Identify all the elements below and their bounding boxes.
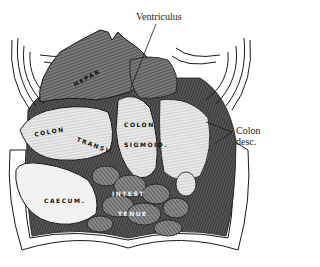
- colon-sigmoid-label-1: COLON: [124, 121, 155, 128]
- colon-descendens-callout-line2: desc.: [236, 136, 256, 147]
- caecum-label: CAECUM.: [44, 197, 85, 204]
- colon-sigmoid-label-2: SIGMOID.: [124, 141, 168, 148]
- descending-colon-region: [160, 99, 210, 180]
- tenue-label: TENUE: [118, 210, 148, 217]
- stomach-organ: [130, 57, 177, 98]
- ventriculus-callout: Ventriculus: [136, 11, 182, 22]
- intestinum-label: INTEST: [112, 190, 145, 197]
- colon-descendens-callout-line1: Colon: [236, 125, 260, 136]
